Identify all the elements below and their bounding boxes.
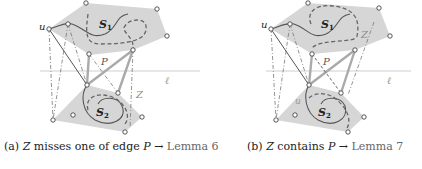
caption-b-text: contains [277,140,324,153]
figure-b: u S1 S2 P Z u ℓ [211,0,422,140]
label-z: Z [360,29,369,40]
caption-a-var2: P [143,140,150,153]
caption-b-var2: P [328,140,335,153]
label-u-faint: u [295,96,301,106]
label-ell: ℓ [165,75,169,86]
arrow-icon: → [339,140,348,153]
caption-a-var: Z [23,140,31,153]
caption-a: (a) Z misses one of edge P → Lemma 6 [4,140,219,153]
label-p: P [322,56,330,67]
caption-a-text: misses one of edge [34,140,140,153]
label-u: u [39,21,45,32]
caption-b-var: Z [266,140,274,153]
caption-a-prefix: (a) [4,140,19,153]
figure-a: u S1 S2 P Z ℓ [0,0,211,140]
diagram-a: u S1 S2 P Z ℓ [0,0,211,140]
caption-b-prefix: (b) [247,140,263,153]
caption-b: (b) Z contains P → Lemma 7 [247,140,403,153]
caption-a-ref[interactable]: Lemma 6 [167,140,219,153]
label-u: u [261,19,267,30]
label-z: Z [135,89,144,100]
label-ell: ℓ [387,75,391,86]
diagram-b: u S1 S2 P Z u ℓ [211,0,422,140]
caption-b-ref[interactable]: Lemma 7 [352,140,404,153]
label-p: P [100,56,108,67]
arrow-icon: → [154,140,163,153]
